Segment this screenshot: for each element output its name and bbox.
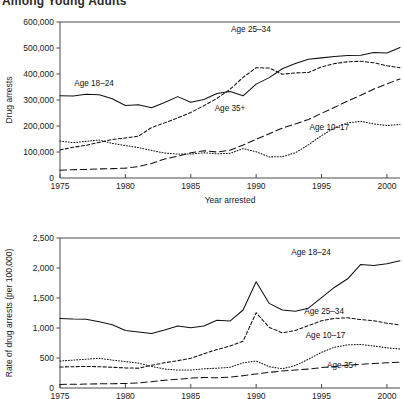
series-inline-label: Age 25–34: [231, 25, 271, 34]
y-tick-label: 400,000: [23, 69, 54, 79]
chart-drug-arrests-counts: 0100,000200,000300,000400,000500,000600,…: [0, 12, 404, 202]
chart-drug-arrests-rates: 05001,0001,5002,0002,5001975198019851990…: [0, 228, 404, 399]
x-tick-label: 1990: [247, 181, 266, 191]
series-inline-label: Age 35+: [215, 104, 246, 113]
x-tick-label: 1990: [247, 391, 266, 399]
figure-title-cropped: Among Young Adults: [2, 0, 262, 8]
series-inline-label: Age 18–24: [74, 79, 114, 88]
x-tick-label: 1985: [181, 391, 200, 399]
x-tick-label: 2000: [377, 391, 396, 399]
x-tick-label: 1975: [51, 181, 70, 191]
x-tick-label: 1985: [181, 181, 200, 191]
y-tick-label: 1,500: [33, 293, 55, 303]
series-inline-label: Age 10–17: [310, 123, 350, 132]
series-line-age-18-24: [60, 261, 400, 334]
y-tick-label: 500: [40, 353, 54, 363]
y-tick-label: 2,000: [33, 263, 55, 273]
y-axis-title: Drug arrests: [4, 77, 14, 124]
series-inline-label: Age 35+: [327, 361, 358, 370]
y-tick-label: 600,000: [23, 17, 54, 27]
series-inline-label: Age 10–17: [306, 331, 346, 340]
series-inline-label: Age 25–34: [304, 307, 344, 316]
y-axis-title: Rate of drug arrests (per 100,000): [4, 249, 14, 378]
panel-drug-arrests-rates: 05001,0001,5002,0002,5001975198019851990…: [0, 228, 404, 399]
series-inline-label: Age 18–24: [291, 248, 331, 257]
x-tick-label: 1980: [116, 391, 135, 399]
y-tick-label: 300,000: [23, 95, 54, 105]
x-tick-label: 1995: [312, 391, 331, 399]
y-tick-label: 2,500: [33, 233, 55, 243]
y-tick-label: 500,000: [23, 43, 54, 53]
x-tick-label: 1975: [51, 391, 70, 399]
y-tick-label: 200,000: [23, 121, 54, 131]
series-line-age-18-24: [60, 47, 400, 107]
x-tick-label: 2000: [377, 181, 396, 191]
x-tick-label: 1980: [116, 181, 135, 191]
y-tick-label: 1,000: [33, 323, 55, 333]
figure-root: Among Young Adults 0100,000200,000300,00…: [0, 0, 404, 399]
x-tick-label: 1995: [312, 181, 331, 191]
x-axis-title: Year arrested: [205, 195, 256, 205]
y-tick-label: 100,000: [23, 147, 54, 157]
panel-drug-arrests-counts: 0100,000200,000300,000400,000500,000600,…: [0, 12, 404, 202]
